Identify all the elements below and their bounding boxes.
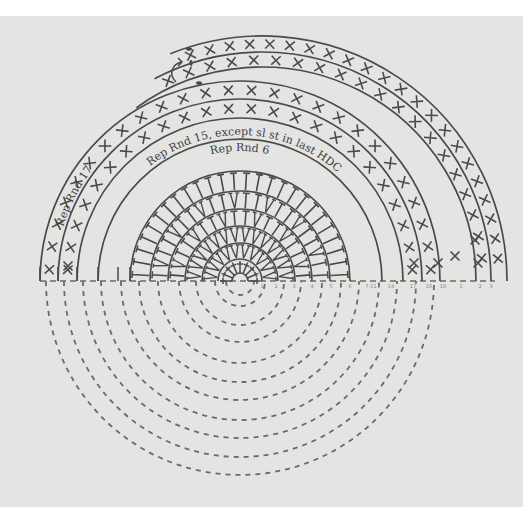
stitch-x-icon (205, 61, 216, 72)
round-number-label: 3 (292, 283, 295, 289)
stitch-hdc-icon (181, 187, 196, 205)
stitch-hdc-icon (281, 208, 296, 224)
stitch-x-icon (224, 104, 234, 114)
stitch-x-icon (355, 77, 367, 89)
round-number-label: 1 (260, 283, 263, 289)
stitch-hdc-icon (153, 212, 171, 228)
stitch-hdc-icon (253, 174, 263, 192)
stitch-hdc-icon (156, 247, 173, 259)
stitch-hdc-icon (175, 248, 191, 260)
stitch-hdc-icon (171, 194, 187, 212)
stitch-x-icon (271, 56, 281, 66)
stitch-x-icon (408, 197, 420, 209)
stitch-x-icon (224, 86, 234, 96)
dashed-arc-2 (196, 281, 284, 325)
stitch-x-icon (479, 194, 491, 206)
stitch-x-icon (451, 252, 460, 261)
stitch-x-icon (389, 199, 401, 211)
slip-stitch-dot-icon (189, 60, 192, 66)
round-number-label: 7-11 (365, 283, 376, 289)
stitch-x-icon (178, 93, 189, 104)
stitch-x-icon (434, 259, 443, 268)
round-number-label: 2 (478, 283, 481, 289)
stitch-x-icon (361, 62, 373, 74)
stitch-x-icon (410, 95, 423, 108)
stitch-x-icon (324, 48, 335, 59)
stitch-hdc-icon (296, 225, 312, 240)
stitch-hdc-icon (161, 236, 178, 249)
round-1-spoke-bar (255, 272, 257, 278)
stitch-x-icon (185, 49, 196, 60)
stitch-hdc-icon (205, 177, 217, 195)
stitch-hdc-icon (242, 193, 250, 208)
dashed-arc-8 (83, 281, 397, 438)
stitch-x-icon (90, 179, 102, 191)
stitch-hdc-icon (207, 216, 219, 232)
stitch-x-icon (462, 157, 474, 169)
stitch-x-icon (407, 265, 417, 275)
round-1-spoke-bar (231, 264, 237, 266)
dashed-arc-0 (226, 281, 254, 295)
stitch-x-icon (66, 242, 77, 253)
stitch-x-icon (342, 54, 354, 66)
stitch-increase-icon (229, 245, 242, 260)
stitch-hdc-icon (217, 174, 227, 192)
stitch-hdc-icon (293, 194, 309, 212)
stitch-x-icon (459, 188, 471, 200)
stitch-x-icon (183, 67, 194, 78)
stitch-hdc-icon (302, 236, 319, 249)
stitch-hdc-icon (230, 173, 238, 190)
round-number-label: 1 (459, 283, 462, 289)
stitch-hdc-icon (322, 233, 340, 246)
stitch-hdc-icon (146, 222, 164, 237)
stitch-x-icon (395, 83, 408, 96)
stitch-hdc-icon (274, 181, 287, 199)
stitch-x-icon (330, 131, 342, 143)
stitch-hdc-icon (133, 258, 151, 268)
stitch-hdc-icon (311, 259, 327, 269)
dashed-arc-5 (139, 281, 341, 382)
stitch-x-icon (493, 254, 503, 264)
round-number-label: 16 (426, 283, 432, 289)
label-rep-rnd-6: Rep Rnd 6 (209, 141, 271, 157)
stitch-x-icon (369, 140, 382, 153)
stitch-x-icon (398, 220, 409, 231)
stitch-hdc-icon (184, 208, 199, 224)
stitch-x-icon (451, 140, 464, 153)
round-number-label: 5 (329, 283, 332, 289)
stitch-x-icon (285, 41, 295, 51)
stitch-hdc-icon (206, 197, 218, 214)
stitch-x-icon (471, 175, 483, 187)
stitch-x-icon (246, 104, 256, 114)
stitch-hdc-icon (252, 194, 262, 210)
stitch-x-icon (247, 86, 257, 96)
stitch-hdc-icon (242, 173, 250, 190)
stitch-hdc-icon (309, 212, 327, 228)
slip-stitch-dot-icon (186, 47, 192, 51)
stitch-increase-icon (239, 228, 251, 243)
round-number-label: 14 (388, 283, 394, 289)
stitch-increase-icon (293, 258, 309, 272)
round-1-spoke-bar (223, 272, 225, 278)
stitch-hdc-icon (136, 246, 154, 258)
stitch-hdc-icon (313, 271, 328, 279)
stitch-hdc-icon (230, 211, 238, 226)
round-1-spoke (246, 267, 254, 275)
stitch-x-icon (45, 265, 55, 275)
stitch-hdc-icon (316, 222, 334, 237)
outer-ring-0 (136, 67, 476, 281)
stitch-x-icon (304, 44, 315, 55)
round-number-label: 17 (410, 283, 416, 289)
stitch-x-icon (116, 124, 129, 137)
stitch-x-icon (335, 69, 347, 81)
stitch-hdc-icon (329, 258, 347, 268)
stitch-x-icon (245, 40, 254, 49)
stitch-x-icon (158, 120, 170, 132)
crochet-chart: Rep Rnd 17Rep Rnd 15, except sl st in la… (0, 16, 523, 507)
stitch-x-icon (374, 88, 386, 100)
stitch-x-icon (423, 241, 433, 251)
stitch-x-icon (347, 145, 360, 158)
stitch-x-icon (351, 124, 364, 137)
stitch-x-icon (269, 88, 279, 98)
stitch-hdc-icon (289, 248, 305, 260)
